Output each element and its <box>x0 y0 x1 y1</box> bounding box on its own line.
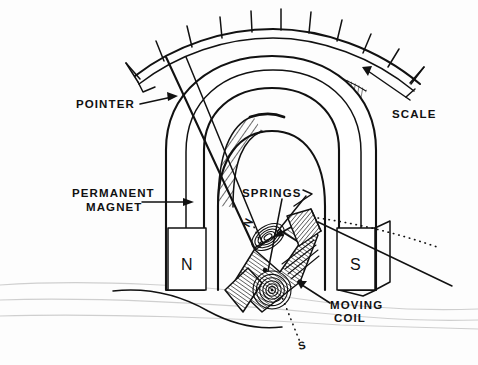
moving-coil-assembly <box>225 209 321 312</box>
arrowhead-pointer <box>167 92 178 101</box>
label-pole-north: N <box>181 256 193 273</box>
moving-coil-meter-diagram: POINTER SCALE PERMANENT MAGNET SPRINGS M… <box>0 0 478 365</box>
label-moving-coil-line2: COIL <box>334 312 366 324</box>
leader-pointer <box>140 92 178 104</box>
label-coil-axis-south: S <box>297 339 307 352</box>
label-scale: SCALE <box>392 108 436 120</box>
label-pole-south: S <box>350 256 361 273</box>
pivot-dot-upper <box>263 268 268 273</box>
label-permanent-magnet-line1: PERMANENT <box>72 187 155 199</box>
label-permanent-magnet-line2: MAGNET <box>86 201 142 213</box>
label-pointer: POINTER <box>76 98 135 110</box>
label-springs: SPRINGS <box>242 187 301 199</box>
arrowhead-scale <box>362 66 372 76</box>
figure-root: POINTER SCALE PERMANENT MAGNET SPRINGS M… <box>0 0 478 365</box>
pole-face-south <box>337 221 390 290</box>
label-moving-coil-line1: MOVING <box>330 299 383 311</box>
